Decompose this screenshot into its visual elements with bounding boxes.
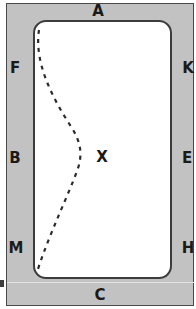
label-b: B bbox=[9, 151, 20, 166]
label-k: K bbox=[182, 61, 194, 76]
label-h: H bbox=[182, 241, 195, 256]
label-c: C bbox=[94, 288, 105, 303]
label-f: F bbox=[10, 61, 20, 76]
label-e: E bbox=[182, 151, 192, 166]
diagram-canvas: A C F B M K E H X bbox=[0, 0, 196, 309]
label-a: A bbox=[92, 4, 104, 19]
label-x: X bbox=[96, 150, 108, 165]
frame-seam-line bbox=[7, 282, 194, 283]
left-edge-tick-mark bbox=[0, 280, 4, 287]
label-m: M bbox=[9, 241, 24, 256]
